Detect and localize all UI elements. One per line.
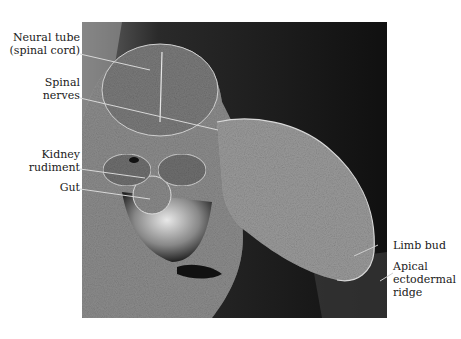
- sem-micrograph: [82, 22, 387, 318]
- label-spinal-nerves-line2: nerves: [4, 89, 80, 102]
- label-aer-line1: Apical: [393, 260, 456, 273]
- label-gut-line1: Gut: [4, 181, 80, 194]
- label-neural-tube-line2: (spinal cord): [4, 44, 80, 57]
- label-neural-tube: Neural tube (spinal cord): [4, 31, 80, 57]
- label-apical-ectodermal-ridge: Apical ectodermal ridge: [393, 260, 456, 299]
- label-kidney-rudiment: Kidney rudiment: [4, 148, 80, 174]
- label-aer-line2: ectodermal: [393, 273, 456, 286]
- label-gut: Gut: [4, 181, 80, 194]
- label-neural-tube-line1: Neural tube: [4, 31, 80, 44]
- label-aer-line3: ridge: [393, 286, 456, 299]
- label-kidney-rudiment-line2: rudiment: [4, 161, 80, 174]
- label-limb-bud: Limb bud: [393, 239, 446, 252]
- label-kidney-rudiment-line1: Kidney: [4, 148, 80, 161]
- label-spinal-nerves: Spinal nerves: [4, 76, 80, 102]
- label-spinal-nerves-line1: Spinal: [4, 76, 80, 89]
- label-limb-bud-line1: Limb bud: [393, 239, 446, 252]
